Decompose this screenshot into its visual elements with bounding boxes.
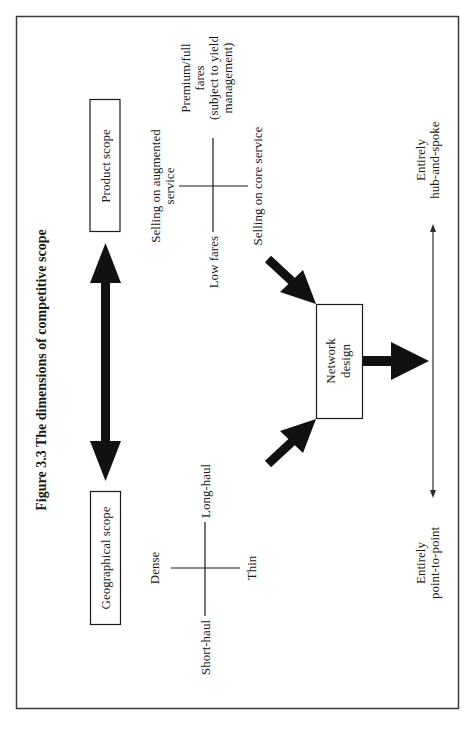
diagram-canvas: Figure 3.3 The dimensions of competitive…	[0, 0, 472, 731]
geographical-crosshair	[171, 522, 240, 616]
network-design-line2: design	[338, 344, 353, 378]
geographical-scope-label: Geographical scope	[98, 506, 113, 609]
product-scope-label: Product scope	[98, 129, 113, 203]
product-crosshair	[179, 138, 248, 232]
product-axis-top-line1: Selling on augmented	[148, 129, 163, 243]
network-design-box: Network design	[317, 305, 363, 419]
product-axis-bottom: Selling on core service	[250, 126, 265, 245]
double-arrow-scope-icon	[90, 243, 121, 481]
spectrum-right-line2: hub-and-spoke	[427, 121, 442, 198]
geo-axis-top: Dense	[147, 552, 162, 585]
product-axis-top-line2: service	[162, 167, 177, 204]
geo-axis-left: Short-haul	[198, 620, 213, 675]
product-axis-right-line3: (subject to yield	[206, 36, 221, 120]
network-spectrum-arrow-icon	[430, 224, 436, 498]
arrow-geo-to-network-icon	[268, 419, 316, 464]
spectrum-left-line2: point-to-point	[427, 527, 442, 600]
product-axis-right-line2: fares	[192, 65, 207, 90]
spectrum-right-line1: Entirely	[413, 139, 428, 181]
product-axis-right-line1: Premium/full	[178, 43, 193, 113]
geo-axis-right: Long-haul	[198, 463, 213, 518]
arrow-product-to-network-icon	[268, 259, 316, 304]
product-axis-right-line4: management)	[220, 43, 235, 114]
geographical-scope-box: Geographical scope	[91, 492, 121, 625]
product-scope-box: Product scope	[90, 100, 120, 232]
product-axis-left: Low fares	[206, 236, 221, 288]
network-design-line1: Network	[323, 338, 338, 384]
arrow-network-to-spectrum-icon	[363, 342, 429, 380]
spectrum-left-line1: Entirely	[413, 542, 428, 584]
figure-title: Figure 3.3 The dimensions of competitive…	[34, 229, 49, 510]
geo-axis-bottom: Thin	[244, 555, 259, 580]
